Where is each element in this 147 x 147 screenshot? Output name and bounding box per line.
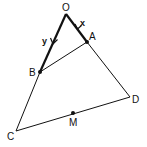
vector-diagram: O A B C D M x y	[0, 0, 147, 147]
label-B: B	[29, 67, 36, 78]
label-vector-x: x	[80, 18, 85, 28]
label-D: D	[132, 94, 139, 105]
label-A: A	[89, 31, 96, 42]
point-M	[71, 111, 75, 115]
label-M: M	[69, 117, 77, 128]
label-vector-y: y	[42, 36, 47, 46]
label-O: O	[62, 2, 70, 13]
segment-AD	[87, 42, 130, 97]
segment-BC	[16, 72, 40, 131]
label-C: C	[7, 131, 14, 142]
point-B	[38, 70, 42, 74]
diagram-svg: O A B C D M x y	[0, 0, 147, 147]
